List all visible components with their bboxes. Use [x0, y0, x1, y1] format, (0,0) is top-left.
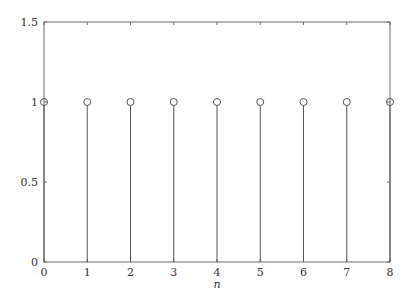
y-tick-label: 1 [31, 96, 38, 109]
y-tick-label: 0.5 [21, 176, 39, 189]
y-tick-label: 1.5 [21, 16, 39, 29]
x-tick-label: 3 [170, 266, 177, 279]
stems [41, 99, 394, 263]
stem-marker [300, 99, 307, 106]
tick-labels: 01234567800.511.5 [21, 16, 394, 279]
stem-marker [170, 99, 177, 106]
stem-marker [343, 99, 350, 106]
x-tick-label: 1 [84, 266, 91, 279]
y-tick-label: 0 [31, 256, 38, 269]
stem-marker [257, 99, 264, 106]
x-tick-label: 7 [343, 266, 350, 279]
stem-marker [214, 99, 221, 106]
x-axis-title: n [213, 278, 220, 291]
x-tick-label: 2 [127, 266, 134, 279]
stem-marker [127, 99, 134, 106]
x-tick-label: 5 [257, 266, 264, 279]
stem-marker [84, 99, 91, 106]
x-tick-label: 6 [300, 266, 307, 279]
x-tick-label: 8 [387, 266, 394, 279]
x-tick-label: 0 [41, 266, 48, 279]
stem-plot: 01234567800.511.5 n [0, 0, 411, 299]
